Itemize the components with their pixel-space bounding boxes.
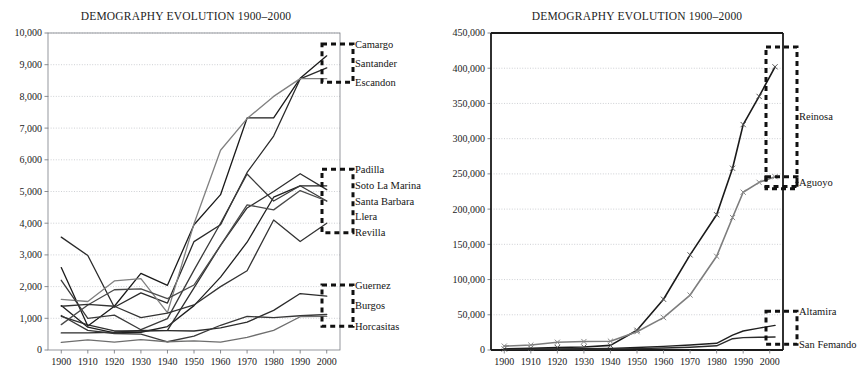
x-tick-label: 1990	[733, 356, 753, 367]
x-tick-label: 1930	[574, 356, 594, 367]
x-tick-label: 1980	[264, 356, 284, 367]
series-line-aguoyo	[504, 177, 775, 346]
y-tick-label: 300,000	[453, 133, 486, 144]
series-label-horcasitas: Horcasitas	[355, 321, 399, 332]
data-marker	[772, 64, 777, 69]
highlight-box-3	[322, 285, 353, 326]
series-label-camargo: Camargo	[355, 39, 393, 50]
data-marker	[661, 315, 666, 320]
y-tick-label: 4,000	[20, 218, 43, 229]
data-marker	[687, 252, 692, 257]
left-chart-panel: DEMOGRAPHY EVOLUTION 1900–200001,0002,00…	[0, 0, 433, 387]
y-tick-label: 450,000	[453, 27, 486, 38]
series-label-escandon: Escandon	[355, 77, 397, 88]
x-tick-label: 1970	[237, 356, 257, 367]
y-tick-label: 250,000	[453, 168, 486, 179]
x-tick-label: 1990	[290, 356, 310, 367]
x-tick-label: 2000	[317, 356, 337, 367]
series-label-padilla: Padilla	[355, 164, 385, 175]
x-tick-label: 2000	[760, 356, 780, 367]
chart-title: DEMOGRAPHY EVOLUTION 1900–2000	[81, 10, 292, 22]
y-tick-label: 400,000	[453, 63, 486, 74]
y-tick-label: 5,000	[20, 186, 43, 197]
chart-title: DEMOGRAPHY EVOLUTION 1900–2000	[532, 10, 743, 22]
series-line-soto-la-marina	[61, 174, 326, 331]
highlight-box-1	[766, 47, 797, 186]
series-line-reinosa	[504, 67, 775, 349]
x-tick-label: 1960	[211, 356, 231, 367]
series-label-soto-la-marina: Soto La Marina	[355, 180, 421, 191]
data-marker	[687, 292, 692, 297]
right-chart-svg: DEMOGRAPHY EVOLUTION 1900–2000050,000100…	[433, 0, 866, 387]
left-chart-svg: DEMOGRAPHY EVOLUTION 1900–200001,0002,00…	[0, 0, 433, 387]
highlight-box-3	[766, 311, 797, 344]
x-tick-label: 1930	[131, 356, 151, 367]
data-marker	[661, 297, 666, 302]
series-label-san-femando: San Femando	[799, 339, 856, 350]
y-tick-label: 3,000	[20, 249, 43, 260]
y-tick-label: 7,000	[20, 123, 43, 134]
x-tick-label: 1940	[157, 356, 177, 367]
y-tick-label: 350,000	[453, 98, 486, 109]
x-tick-label: 1920	[104, 356, 124, 367]
highlight-box-1	[322, 44, 353, 82]
series-line-altamira	[504, 325, 775, 349]
series-label-revilla: Revilla	[355, 227, 386, 238]
y-tick-label: 100,000	[453, 274, 486, 285]
x-tick-label: 1910	[521, 356, 541, 367]
x-tick-label: 1900	[51, 356, 71, 367]
series-line-padilla	[61, 186, 326, 333]
series-label-santa-barbara: Santa Barbara	[355, 196, 415, 207]
x-tick-label: 1960	[654, 356, 674, 367]
x-tick-label: 1980	[707, 356, 727, 367]
y-tick-label: 8,000	[20, 91, 43, 102]
demography-figure: DEMOGRAPHY EVOLUTION 1900–200001,0002,00…	[0, 0, 866, 387]
series-label-altamira: Altamira	[799, 306, 837, 317]
y-tick-label: 6,000	[20, 154, 43, 165]
right-chart-panel: DEMOGRAPHY EVOLUTION 1900–2000050,000100…	[433, 0, 866, 387]
data-marker	[757, 94, 762, 99]
x-tick-label: 1920	[547, 356, 567, 367]
series-label-santander: Santander	[355, 58, 397, 69]
series-label-reinosa: Reinosa	[799, 111, 833, 122]
x-tick-label: 1950	[627, 356, 647, 367]
series-line-guernez	[61, 294, 326, 333]
series-label-llera: Llera	[355, 211, 377, 222]
x-tick-label: 1940	[600, 356, 620, 367]
series-label-burgos: Burgos	[355, 300, 385, 311]
y-tick-label: 0	[37, 344, 42, 355]
series-group	[61, 56, 326, 343]
x-tick-label: 1970	[680, 356, 700, 367]
y-tick-label: 1,000	[20, 313, 43, 324]
series-label-aguoyo: Aguoyo	[799, 177, 833, 188]
series-line-escandon	[61, 79, 326, 313]
x-tick-label: 1900	[494, 356, 514, 367]
series-label-guernez: Guernez	[355, 280, 391, 291]
y-tick-label: 150,000	[453, 239, 486, 250]
y-tick-label: 10,000	[15, 27, 43, 38]
series-group	[502, 64, 778, 351]
y-tick-label: 0	[480, 344, 485, 355]
y-tick-label: 200,000	[453, 204, 486, 215]
x-tick-label: 1910	[78, 356, 98, 367]
y-tick-label: 50,000	[458, 309, 486, 320]
series-markers-aguoyo	[502, 174, 778, 349]
y-tick-label: 2,000	[20, 281, 43, 292]
x-tick-label: 1950	[184, 356, 204, 367]
y-tick-label: 9,000	[20, 59, 43, 70]
